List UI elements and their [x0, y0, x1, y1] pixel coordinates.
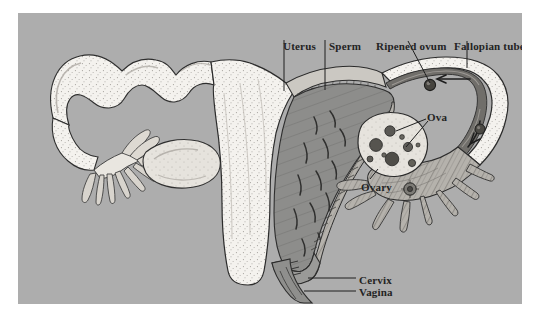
left-fallopian-tube: [51, 55, 214, 125]
label-fallopian-tube: Fallopian tube: [454, 40, 522, 52]
screenshot-root: Uterus Sperm Ripened ovum Fallopian tube…: [0, 0, 534, 324]
tube-ovum-distal: [475, 124, 485, 134]
label-cervix: Cervix: [359, 274, 392, 286]
ripened-ovum: [424, 79, 435, 90]
diagram-panel: Uterus Sperm Ripened ovum Fallopian tube…: [18, 13, 522, 304]
label-ova: Ova: [427, 111, 447, 123]
label-ripened-ovum: Ripened ovum: [376, 40, 447, 52]
label-uterus: Uterus: [283, 40, 316, 52]
left-tube-distal: [52, 118, 98, 170]
left-ovary: [143, 139, 220, 188]
label-ovary: Ovary: [361, 181, 392, 193]
label-vagina: Vagina: [359, 286, 393, 298]
label-sperm: Sperm: [329, 40, 361, 52]
reproductive-system-illustration: [18, 13, 522, 304]
